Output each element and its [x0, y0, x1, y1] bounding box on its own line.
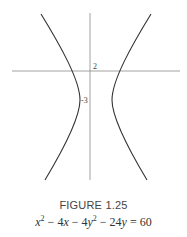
hyperbola-graph: 2 -3 — [0, 0, 187, 195]
left-branch — [41, 14, 80, 180]
right-branch — [112, 14, 151, 180]
eq-term: − 4 — [69, 215, 88, 229]
equation: x2 − 4x − 4y2 − 24y = 60 — [0, 215, 187, 230]
eq-term: = 60 — [127, 215, 152, 229]
eq-term: − 24 — [97, 215, 122, 229]
figure-label: FIGURE 1.25 — [0, 199, 187, 211]
eq-term: − 4 — [45, 215, 64, 229]
x-tick-label: 2 — [93, 62, 97, 71]
y-tick-label: -3 — [81, 96, 88, 105]
